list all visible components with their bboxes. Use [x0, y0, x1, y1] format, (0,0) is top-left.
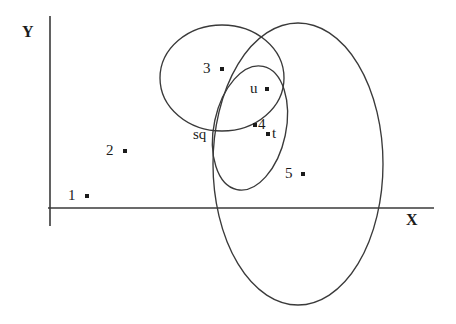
region-label-sq: sq — [193, 127, 206, 142]
point-label-3: 3 — [203, 61, 211, 76]
y-axis-label: Y — [22, 24, 34, 40]
point-dot-2 — [123, 149, 127, 153]
point-label-1: 1 — [68, 188, 76, 203]
ellipse-right-large — [213, 23, 383, 305]
point-label-4: 4 — [258, 117, 266, 132]
point-label-2: 2 — [106, 143, 114, 158]
point-label-t: t — [272, 126, 276, 141]
point-dot-1 — [85, 194, 89, 198]
ellipses-group — [160, 23, 383, 305]
point-label-u: u — [250, 81, 258, 96]
diagram-canvas: Y X 1 2 3 u 4 t 5 sq — [0, 0, 456, 324]
diagram-svg — [0, 0, 456, 324]
point-dot-u — [265, 87, 269, 91]
point-dot-t — [266, 132, 270, 136]
point-dot-4 — [253, 123, 257, 127]
point-label-5: 5 — [285, 166, 293, 181]
point-dot-3 — [220, 67, 224, 71]
x-axis-label: X — [406, 212, 418, 228]
point-dot-5 — [301, 172, 305, 176]
axes-group — [48, 16, 434, 226]
